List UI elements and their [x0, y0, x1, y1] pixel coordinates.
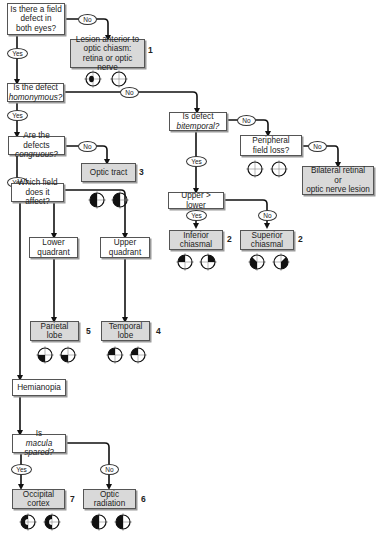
edge-label-yes: Yes: [7, 48, 28, 59]
node-text: congruous?: [11, 150, 62, 160]
node-text: quadrant: [109, 248, 141, 258]
node-is-macula-spared: Is maculaspared?: [12, 434, 66, 453]
node-text: optic chiasm:: [73, 44, 142, 54]
node-lesion-anterior-chiasm: Lesion anterior tooptic chiasm:retina or…: [70, 39, 145, 68]
visual-field-left-hemianopia-icon: [114, 513, 132, 531]
node-text: Is defect: [177, 112, 220, 122]
node-text: Upper: [109, 238, 141, 248]
visual-field-upper-left-quadrant-icon: [129, 346, 147, 364]
node-text: Peripheral: [252, 136, 289, 146]
node-text: Temporal: [109, 322, 143, 332]
node-temporal-lobe: Temporallobe: [101, 321, 150, 341]
reference-number: 3: [139, 167, 144, 177]
node-text: Lesion anterior to: [73, 35, 142, 45]
node-text: Optic: [94, 490, 125, 500]
node-bilateral-retinal-optic-nerve-lesion: Bilateral retinaloroptic nerve lesion: [302, 166, 374, 195]
reference-number: 7: [70, 494, 75, 504]
visual-field-upper-left-quadrant-icon: [106, 346, 124, 364]
reference-number: 1: [148, 45, 153, 55]
node-peripheral-field-loss: Peripheralfield loss?: [240, 135, 302, 156]
node-text: homonymous?: [9, 93, 63, 103]
node-text: lobe: [109, 331, 143, 341]
node-text: Bilateral retinal: [306, 166, 370, 176]
visual-field-normal-icon: [110, 70, 128, 88]
visual-field-normal-icon: [246, 160, 264, 178]
node-is-defect-homonymous: Is the defecthomonymous?: [7, 83, 64, 102]
node-text: Is: [24, 429, 54, 439]
visual-field-macular-sparing-icon: [43, 513, 61, 531]
node-text: optic nerve lesion: [306, 185, 370, 195]
visual-field-lower-temporal-quadrant-right-icon: [272, 253, 290, 271]
node-upper-quadrant: Upperquadrant: [100, 237, 150, 258]
node-parietal-lobe: Parietallobe: [30, 321, 79, 341]
node-text: Inferior: [180, 231, 212, 241]
node-text: chiasmal: [251, 240, 283, 250]
visual-field-upper-temporal-quadrant-left-icon: [176, 253, 194, 271]
node-optic-tract: Optic tract: [81, 163, 136, 182]
node-text: lobe: [41, 331, 69, 341]
node-text: bitemporal?: [177, 122, 220, 132]
node-text: chiasmal: [180, 240, 212, 250]
node-text: Which field: [14, 178, 61, 188]
edge-label-no: No: [308, 141, 327, 152]
node-hemianopia: Hemianopia: [12, 379, 66, 396]
node-superior-chiasmal: Superiorchiasmal: [240, 230, 294, 250]
edge-label-yes: Yes: [7, 110, 28, 121]
node-is-defect-bitemporal: Is defectbitemporal?: [169, 112, 227, 131]
visual-field-macular-sparing-icon: [19, 513, 37, 531]
node-text: Is the defect: [9, 83, 63, 93]
node-text: Is there a field: [10, 5, 61, 15]
reference-number: 5: [86, 326, 91, 336]
node-field-defect-both-eyes: Is there a fielddefect inboth eyes?: [7, 3, 65, 35]
node-text: Optic tract: [90, 168, 127, 178]
node-text: field loss?: [252, 146, 289, 156]
visual-field-upper-temporal-quadrant-right-icon: [199, 253, 217, 271]
node-text: Upper > lower: [171, 191, 221, 210]
node-are-defects-congruous: Are the defectscongruous?: [8, 136, 65, 155]
node-upper-greater-than-lower: Upper > lower: [168, 192, 224, 209]
reference-number: 6: [141, 494, 146, 504]
node-text: Hemianopia: [17, 383, 61, 393]
edge-label-no: No: [258, 210, 277, 221]
reference-number: 2: [298, 234, 303, 244]
node-text: both eyes?: [10, 24, 61, 34]
node-which-field-affected: Which fielddoes it affect?: [11, 183, 64, 202]
node-text: defect in: [10, 14, 61, 24]
edge-label-yes: Yes: [11, 464, 32, 475]
edge-label-no: No: [100, 464, 119, 475]
visual-field-left-hemianopia-icon: [111, 191, 129, 209]
node-text: Superior: [251, 231, 283, 241]
flowchart-canvas: Is there a fielddefect inboth eyes? No Y…: [0, 0, 386, 540]
reference-number: 2: [227, 234, 232, 244]
node-text: radiation: [94, 499, 125, 509]
visual-field-lower-temporal-quadrant-left-icon: [248, 253, 266, 271]
node-text: or: [306, 176, 370, 186]
edge-label-no: No: [78, 141, 97, 152]
node-text: macula: [24, 439, 54, 449]
visual-field-left-hemianopia-icon: [90, 513, 108, 531]
node-inferior-chiasmal: Inferiorchiasmal: [169, 230, 223, 250]
reference-number: 4: [156, 326, 161, 336]
visual-field-lower-left-quadrant-icon: [36, 346, 54, 364]
node-occipital-cortex: Occipitalcortex: [12, 489, 65, 509]
node-text: does it affect?: [14, 188, 61, 207]
node-text: quadrant: [37, 248, 69, 258]
node-text: Lower: [37, 238, 69, 248]
node-optic-radiation: Opticradiation: [83, 489, 136, 509]
edge-label-no: No: [120, 87, 139, 98]
node-text: Are the defects: [11, 131, 62, 150]
edge-label-no: No: [237, 115, 256, 126]
edge-label-yes: Yes: [186, 156, 207, 167]
node-text: Occipital: [23, 490, 54, 500]
node-text: Parietal: [41, 322, 69, 332]
visual-field-normal-icon: [270, 160, 288, 178]
visual-field-lower-left-quadrant-icon: [59, 346, 77, 364]
node-text: cortex: [23, 499, 54, 509]
edge-label-no: No: [78, 14, 97, 25]
edge-label-yes: Yes: [186, 210, 207, 221]
node-lower-quadrant: Lowerquadrant: [29, 237, 78, 258]
visual-field-central-scotoma-icon: [84, 70, 102, 88]
visual-field-left-hemianopia-icon: [88, 191, 106, 209]
node-text: spared?: [24, 448, 54, 458]
